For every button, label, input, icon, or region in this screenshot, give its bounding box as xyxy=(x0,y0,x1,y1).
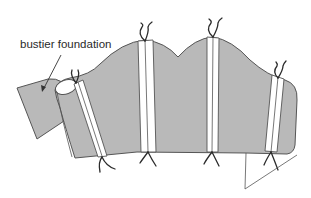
tie-icon-bottom-4 xyxy=(264,152,278,170)
tie-icon-bottom-1 xyxy=(99,157,115,172)
tie-icon-top-3 xyxy=(208,18,222,37)
tie-icon-top-2 xyxy=(140,22,152,41)
diagram-canvas xyxy=(0,0,311,198)
hem-extension-lines xyxy=(245,153,297,189)
tie-icon-bottom-3 xyxy=(204,152,219,166)
tie-icon-top-4 xyxy=(275,61,286,78)
label-bustier-foundation: bustier foundation xyxy=(20,38,111,50)
tie-icon-bottom-2 xyxy=(140,152,156,166)
boning-channel-2 xyxy=(138,40,156,152)
bustier-panel xyxy=(55,37,297,158)
